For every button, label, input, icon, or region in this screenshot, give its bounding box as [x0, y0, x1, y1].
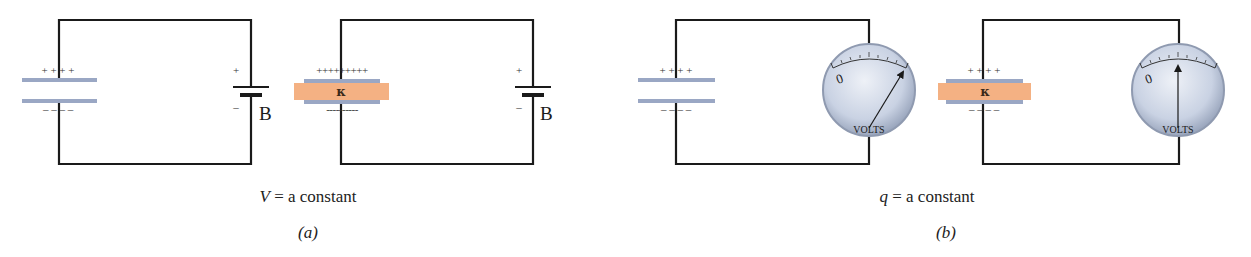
panel-a-caption: V = a constant	[260, 187, 357, 206]
panel-b-label: (b)	[936, 223, 956, 242]
capacitor-plate-top	[22, 78, 97, 82]
capacitor-dielectric-figure: + + + + – – – – + – B κ +++++++++ ------…	[0, 0, 1251, 257]
plate-top-charges: + + + +	[967, 64, 1000, 76]
meter-volts-label: VOLTS	[1162, 124, 1193, 135]
plate-top-charges: + + + +	[659, 64, 692, 76]
wire-loop	[341, 20, 533, 87]
battery-label: B	[540, 103, 553, 124]
capacitor-plate-top	[638, 78, 715, 82]
capacitor-plate-top	[304, 79, 380, 83]
wire-loop-lower	[341, 95, 533, 164]
meter-volts-label: VOLTS	[853, 124, 884, 135]
plate-bottom-charges: – – – –	[42, 103, 74, 115]
dielectric-kappa-label: κ	[336, 84, 346, 99]
battery-plus: +	[233, 64, 239, 76]
voltmeter-icon	[1132, 44, 1224, 136]
battery-label: B	[259, 103, 272, 124]
battery-plus: +	[516, 64, 522, 76]
plate-top-charges: +++++++++	[316, 64, 368, 76]
battery-icon	[233, 87, 269, 95]
voltmeter-icon	[823, 44, 915, 136]
battery-minus: –	[515, 101, 522, 113]
plate-bottom-charges: – – – –	[660, 103, 692, 115]
circuit-a1-no-dielectric: + + + + – – – – + – B	[22, 20, 272, 164]
panel-b-caption: q = a constant	[879, 187, 974, 206]
circuit-b2-with-dielectric: κ + + + + – – – – 0 VOLTS	[938, 20, 1224, 164]
panel-a-label: (a)	[298, 223, 318, 242]
circuit-a2-with-dielectric: κ +++++++++ ---------- + – B	[294, 20, 553, 164]
plate-top-charges: + + + +	[41, 64, 74, 76]
battery-icon	[515, 87, 551, 95]
dielectric-kappa-label: κ	[980, 84, 990, 99]
plate-bottom-charges: ----------	[326, 103, 358, 115]
circuit-b1-no-dielectric: + + + + – – – – 0 VOLTS	[638, 20, 915, 164]
capacitor-plate-top	[946, 79, 1023, 83]
wire-loop	[59, 20, 251, 87]
battery-minus: –	[232, 101, 239, 113]
plate-bottom-charges: – – – –	[968, 103, 1000, 115]
wire-loop-lower	[59, 95, 251, 164]
